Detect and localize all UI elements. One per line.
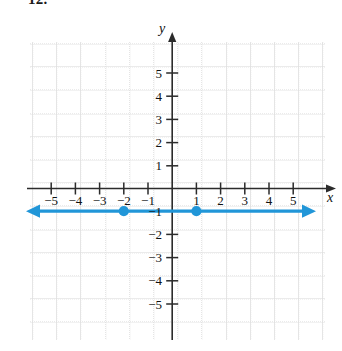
x-tick-label: 2 xyxy=(211,193,231,209)
axes-layer xyxy=(0,0,342,351)
y-tick-label: 5 xyxy=(144,66,162,82)
graph-right-arrowhead xyxy=(302,205,316,218)
x-tick-label: −4 xyxy=(65,193,85,209)
y-tick-label: −1 xyxy=(138,204,162,220)
x-tick-label: 1 xyxy=(186,193,206,209)
y-tick-label: 2 xyxy=(144,135,162,151)
y-tick-label: −2 xyxy=(138,227,162,243)
y-tick-label: −3 xyxy=(138,250,162,266)
x-tick-label: −3 xyxy=(90,193,110,209)
y-axis-arrowhead xyxy=(168,32,176,42)
x-tick-label: −2 xyxy=(114,193,134,209)
x-tick-label: 3 xyxy=(235,193,255,209)
x-axis-label: x xyxy=(327,190,333,206)
y-axis xyxy=(166,32,178,340)
y-tick-label: −4 xyxy=(138,273,162,289)
y-tick-label: −5 xyxy=(138,297,162,313)
y-tick-label: 4 xyxy=(144,89,162,105)
x-tick-label: 5 xyxy=(283,193,303,209)
graph-left-arrowhead xyxy=(26,205,40,218)
y-tick-label: 3 xyxy=(144,112,162,128)
y-tick-label: 1 xyxy=(144,158,162,174)
coordinate-plane: −5 −4 −3 −2 −1 1 2 3 4 5 5 4 3 2 1 −1 −2… xyxy=(0,0,342,351)
y-axis-label: y xyxy=(159,21,165,37)
x-tick-label: −5 xyxy=(41,193,61,209)
x-tick-label: 4 xyxy=(259,193,279,209)
